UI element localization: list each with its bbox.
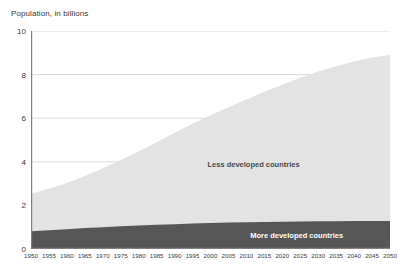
x-axis-tick-1985: 1985 <box>150 252 164 259</box>
x-axis-tick-2020: 2020 <box>275 252 289 259</box>
y-axis-tick-4: 4 <box>6 157 26 166</box>
x-axis-tick-2005: 2005 <box>222 252 236 259</box>
y-axis-tick-10: 10 <box>6 27 26 36</box>
x-axis-tick-1975: 1975 <box>114 252 128 259</box>
x-axis-tick-2030: 2030 <box>311 252 325 259</box>
x-axis-tick-2000: 2000 <box>204 252 218 259</box>
series-label-more-developed: More developed countries <box>250 231 343 240</box>
x-axis-tick-2035: 2035 <box>329 252 343 259</box>
plot-area <box>31 31 390 249</box>
population-area-chart: Population, in billions 0246810 19501955… <box>0 0 405 275</box>
chart-svg <box>31 31 390 249</box>
y-axis-tick-2: 2 <box>6 201 26 210</box>
x-axis-tick-2025: 2025 <box>293 252 307 259</box>
y-axis-tick-8: 8 <box>6 70 26 79</box>
x-axis-tick-2010: 2010 <box>240 252 254 259</box>
x-axis-tick-1965: 1965 <box>78 252 92 259</box>
x-axis-tick-1960: 1960 <box>60 252 74 259</box>
x-axis-tick-2050: 2050 <box>383 252 397 259</box>
y-axis-tick-6: 6 <box>6 114 26 123</box>
x-axis-tick-1970: 1970 <box>96 252 110 259</box>
x-axis-tick-2045: 2045 <box>365 252 379 259</box>
x-axis-tick-2015: 2015 <box>257 252 271 259</box>
x-axis-tick-1995: 1995 <box>186 252 200 259</box>
chart-axis-title: Population, in billions <box>11 9 88 18</box>
x-axis-tick-2040: 2040 <box>347 252 361 259</box>
x-axis-tick-1980: 1980 <box>132 252 146 259</box>
area-less-developed-countries <box>31 55 390 249</box>
x-axis-tick-1990: 1990 <box>168 252 182 259</box>
x-axis-tick-1950: 1950 <box>24 252 38 259</box>
series-label-less-developed: Less developed countries <box>208 159 300 168</box>
y-axis-tick-0: 0 <box>6 245 26 254</box>
x-axis-tick-1955: 1955 <box>42 252 56 259</box>
